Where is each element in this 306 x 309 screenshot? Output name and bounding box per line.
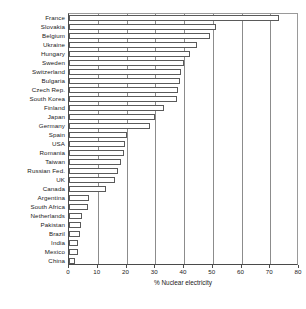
bar-series [69, 14, 297, 264]
y-label-finland: Finland [0, 104, 65, 111]
y-label-hungary: Hungary [0, 50, 65, 57]
y-label-switzerland: Switzerland [0, 68, 65, 75]
bar-japan [69, 114, 155, 120]
bar-sweden [69, 60, 184, 66]
bar-india [69, 240, 78, 246]
bar-usa [69, 141, 125, 147]
bar-pakistan [69, 222, 81, 228]
y-label-taiwan: Taiwan [0, 158, 65, 165]
bar-switzerland [69, 69, 181, 75]
x-tick-label-70: 70 [266, 268, 273, 276]
bar-china [69, 258, 75, 264]
bar-bulgaria [69, 78, 180, 84]
y-label-spain: Spain [0, 131, 65, 138]
y-label-china: China [0, 257, 65, 264]
y-label-brazil: Brazil [0, 230, 65, 237]
bar-canada [69, 186, 106, 192]
bar-france [69, 15, 279, 21]
bar-slovakia [69, 24, 216, 30]
y-label-germany: Germany [0, 122, 65, 129]
x-tick-label-60: 60 [237, 268, 244, 276]
y-label-uk: UK [0, 176, 65, 183]
x-tick-label-20: 20 [122, 268, 129, 276]
y-label-india: India [0, 239, 65, 246]
bar-mexico [69, 249, 78, 255]
bar-brazil [69, 231, 80, 237]
bar-argentina [69, 195, 89, 201]
bar-ukraine [69, 42, 197, 48]
x-axis-title: % Nuclear electricity [68, 278, 298, 287]
y-label-netherlands: Netherlands [0, 212, 65, 219]
y-label-argentina: Argentina [0, 194, 65, 201]
bar-south-africa [69, 204, 88, 210]
y-label-south-korea: South Korea [0, 95, 65, 102]
bar-uk [69, 177, 115, 183]
y-label-ukraine: Ukraine [0, 41, 65, 48]
y-label-canada: Canada [0, 185, 65, 192]
bar-spain [69, 132, 127, 138]
x-tick-label-50: 50 [208, 268, 215, 276]
bar-netherlands [69, 213, 82, 219]
x-tick-label-40: 40 [180, 268, 187, 276]
bar-czech-rep [69, 87, 178, 93]
bar-romania [69, 150, 124, 156]
x-tick-label-10: 10 [93, 268, 100, 276]
nuclear-electricity-bar-chart: FranceSlovakiaBelgiumUkraineHungarySwede… [0, 0, 306, 309]
y-label-south-africa: South Africa [0, 203, 65, 210]
y-label-belgium: Belgium [0, 32, 65, 39]
y-label-slovakia: Slovakia [0, 23, 65, 30]
y-label-mexico: Mexico [0, 248, 65, 255]
y-label-bulgaria: Bulgaria [0, 77, 65, 84]
y-label-pakistan: Pakistan [0, 221, 65, 228]
bar-russian-fed [69, 168, 118, 174]
y-label-france: France [0, 14, 65, 21]
x-tick-label-80: 80 [295, 268, 302, 276]
x-axis-tick-labels: 01020304050607080 [68, 268, 298, 278]
x-tick-label-30: 30 [151, 268, 158, 276]
plot-area [68, 13, 298, 265]
y-label-japan: Japan [0, 113, 65, 120]
bar-south-korea [69, 96, 177, 102]
y-label-sweden: Sweden [0, 59, 65, 66]
y-label-czech-rep: Czech Rep. [0, 86, 65, 93]
y-label-usa: USA [0, 140, 65, 147]
bar-taiwan [69, 159, 121, 165]
footer-ghost-text [34, 299, 184, 307]
y-label-romania: Romania [0, 149, 65, 156]
bar-finland [69, 105, 164, 111]
y-axis-category-labels: FranceSlovakiaBelgiumUkraineHungarySwede… [0, 13, 65, 265]
bar-hungary [69, 51, 190, 57]
x-tick-label-0: 0 [66, 268, 69, 276]
y-label-russian-fed: Russian Fed. [0, 167, 65, 174]
bar-germany [69, 123, 150, 129]
bar-belgium [69, 33, 210, 39]
